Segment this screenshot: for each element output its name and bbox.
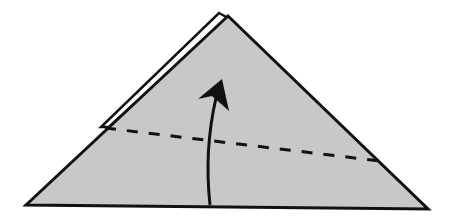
paper-triangle: [26, 16, 428, 209]
diagram-canvas: [0, 0, 449, 220]
origami-diagram: Valley fold: fold the bottom edge of the…: [0, 0, 449, 220]
